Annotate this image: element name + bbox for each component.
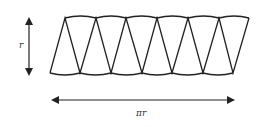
width-label: πr	[135, 108, 147, 118]
sector-rearrangement-diagram: r πr	[0, 0, 263, 127]
sectors-shape	[50, 16, 249, 75]
height-label: r	[19, 40, 24, 50]
